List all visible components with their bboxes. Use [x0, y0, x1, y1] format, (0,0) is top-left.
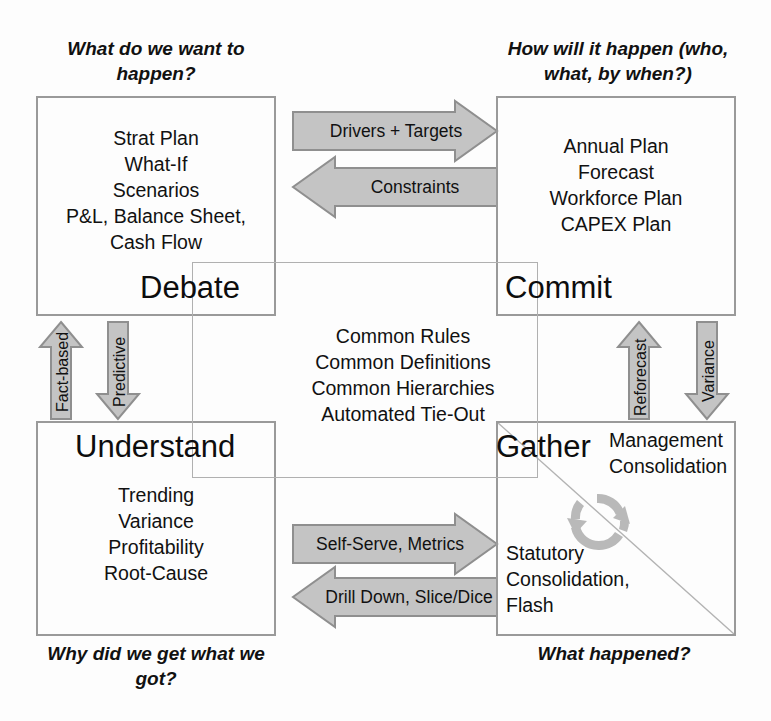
commit-item: Workforce Plan — [496, 185, 736, 211]
gather-item: Statutory — [506, 540, 676, 566]
commit-item: Annual Plan — [496, 133, 736, 159]
debate-item: Strat Plan — [36, 125, 276, 151]
quadrant-title-commit: Commit — [505, 271, 612, 305]
understand-item: Variance — [36, 508, 276, 534]
caption-bottom-left: Why did we get what we got? — [36, 641, 276, 691]
quadrant-title-gather: Gather — [496, 430, 591, 464]
commit-item-list: Annual Plan Forecast Workforce Plan CAPE… — [496, 133, 736, 237]
caption-top-left: What do we want to happen? — [36, 36, 276, 86]
gather-management-list: Management Consolidation — [609, 427, 769, 479]
gather-item: Flash — [506, 592, 676, 618]
gather-statutory-list: Statutory Consolidation, Flash — [506, 540, 676, 618]
center-item-list: Common Rules Common Definitions Common H… — [283, 323, 523, 427]
caption-top-right: How will it happen (who, what, by when?) — [492, 36, 744, 86]
arrow-label-variance: Variance — [700, 340, 717, 402]
commit-item: Forecast — [496, 159, 736, 185]
arrow-label-constraints: Constraints — [335, 178, 495, 197]
arrow-label-fact-based: Fact-based — [54, 332, 71, 412]
arrow-label-drivers-targets: Drivers + Targets — [316, 122, 476, 141]
gather-item: Consolidation — [609, 453, 769, 479]
debate-item: Cash Flow — [36, 229, 276, 255]
commit-item: CAPEX Plan — [496, 211, 736, 237]
quadrant-title-understand: Understand — [75, 430, 235, 464]
debate-item: Scenarios — [36, 177, 276, 203]
arrow-label-self-serve-metrics: Self-Serve, Metrics — [305, 535, 475, 554]
gather-item: Management — [609, 427, 769, 453]
understand-item: Profitability — [36, 534, 276, 560]
center-item: Common Rules — [283, 323, 523, 349]
understand-item-list: Trending Variance Profitability Root-Cau… — [36, 482, 276, 586]
debate-item: P&L, Balance Sheet, — [36, 203, 276, 229]
debate-item: What-If — [36, 151, 276, 177]
understand-item: Trending — [36, 482, 276, 508]
caption-bottom-right: What happened? — [492, 641, 736, 666]
quadrant-title-debate: Debate — [140, 271, 240, 305]
center-item: Automated Tie-Out — [283, 401, 523, 427]
arrow-label-drill-down: Drill Down, Slice/Dice — [318, 588, 500, 607]
arrow-label-predictive: Predictive — [111, 337, 128, 407]
arrow-label-reforecast: Reforecast — [632, 339, 649, 416]
center-item: Common Hierarchies — [283, 375, 523, 401]
understand-item: Root-Cause — [36, 560, 276, 586]
gather-item: Consolidation, — [506, 566, 676, 592]
diagram-canvas: What do we want to happen? How will it h… — [0, 0, 771, 721]
center-item: Common Definitions — [283, 349, 523, 375]
debate-item-list: Strat Plan What-If Scenarios P&L, Balanc… — [36, 125, 276, 255]
